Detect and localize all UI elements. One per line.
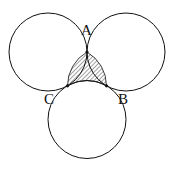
label-a: A (81, 22, 92, 38)
circle-top-right (87, 13, 165, 91)
point-c-dot (66, 84, 69, 87)
point-b-dot (105, 84, 108, 87)
circle-top-left (9, 13, 87, 91)
circle-bottom (48, 81, 126, 159)
tangent-circles-diagram: A B C (0, 0, 173, 169)
point-a-dot (85, 50, 88, 53)
label-b: B (118, 91, 128, 107)
label-c: C (44, 91, 54, 107)
